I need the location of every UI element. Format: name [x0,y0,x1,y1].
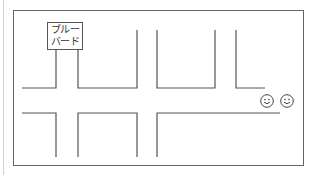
landmark-name-line2: バード [51,36,80,48]
smiley-face-icon [280,94,294,108]
block-lower-2 [78,113,137,157]
block-lower-1 [22,113,56,157]
lower-blocks [22,113,280,157]
block-upper-4 [236,30,265,88]
block-upper-2 [78,30,137,88]
block-upper-1 [22,50,56,88]
smiley-face-icon [260,94,274,108]
block-upper-3 [157,30,215,88]
block-lower-3 [157,113,280,157]
landmark-name-line1: ブルー [51,24,80,36]
landmark-sign: ブルー バード [47,22,83,50]
